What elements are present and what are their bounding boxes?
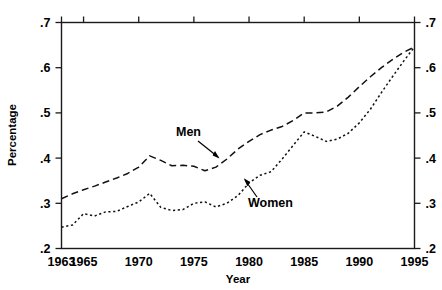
y-axis-ticks-left (56, 23, 62, 249)
y-tick-label-right-.3: .3 (426, 197, 436, 211)
y-tick-label-left-.6: .6 (40, 61, 50, 75)
x-tick-label-1985: 1985 (290, 255, 318, 269)
series-annotation-men: Men (176, 125, 201, 139)
y-tick-label-right-.4: .4 (426, 152, 436, 166)
y-axis-tick-labels-left: .2.3.4.5.6.7 (40, 16, 50, 256)
x-axis-tick-labels: 19631965197019751980198519901995 (48, 255, 429, 269)
x-tick-label-1965: 1965 (70, 255, 98, 269)
x-axis-title: Year (226, 273, 251, 285)
y-tick-label-right-.7: .7 (426, 16, 436, 30)
x-tick-label-1990: 1990 (345, 255, 373, 269)
x-tick-label-1980: 1980 (235, 255, 263, 269)
x-axis-ticks-top (62, 17, 415, 23)
y-tick-label-left-.2: .2 (40, 242, 50, 256)
y-axis-ticks-right (415, 23, 421, 249)
y-tick-label-right-.2: .2 (426, 242, 436, 256)
y-axis-tick-labels-right: .2.3.4.5.6.7 (426, 16, 436, 256)
y-tick-label-left-.4: .4 (40, 152, 50, 166)
y-tick-label-left-.5: .5 (40, 106, 50, 120)
annotation-leader-lines (198, 141, 257, 197)
y-tick-label-left-.3: .3 (40, 197, 50, 211)
y-axis-title: Percentage (6, 104, 18, 166)
y-tick-label-right-.6: .6 (426, 61, 436, 75)
series-line-men (62, 47, 415, 199)
x-tick-label-1995: 1995 (401, 255, 429, 269)
chart-figure: 19631965197019751980198519901995 .2.3.4.… (0, 0, 442, 290)
men-leader-arrowhead (213, 151, 220, 159)
x-tick-label-1970: 1970 (125, 255, 153, 269)
y-tick-label-right-.5: .5 (426, 106, 436, 120)
series-line-women (62, 47, 415, 227)
series-annotation-women: Women (248, 196, 293, 210)
chart-canvas: 19631965197019751980198519901995 .2.3.4.… (0, 0, 442, 290)
x-tick-label-1975: 1975 (180, 255, 208, 269)
y-tick-label-left-.7: .7 (40, 16, 50, 30)
plot-frame (62, 23, 415, 249)
